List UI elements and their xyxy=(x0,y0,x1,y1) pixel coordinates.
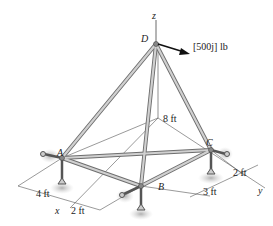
dimension-a-x: 4 ft xyxy=(36,188,50,199)
dimension-c-y: 2 ft xyxy=(233,167,247,178)
x-axis-label: x xyxy=(54,205,60,216)
joint-label-a: A xyxy=(56,147,64,158)
dimension-b-x: 2 ft xyxy=(71,205,85,216)
joint-label-b: B xyxy=(158,181,164,192)
space-truss-diagram: z D [500j] lb 8 ft A B C 4 ft x 2 ft 3 f… xyxy=(0,0,273,226)
joint-label-d: D xyxy=(140,33,149,44)
y-axis-label: y xyxy=(257,185,263,196)
joint-label-c: C xyxy=(206,137,213,148)
truss-members xyxy=(62,44,211,186)
load-label: [500j] lb xyxy=(193,41,228,52)
z-axis-label: z xyxy=(151,10,156,21)
dimension-b-y: 3 ft xyxy=(203,186,217,197)
height-dimension: 8 ft xyxy=(163,113,177,124)
